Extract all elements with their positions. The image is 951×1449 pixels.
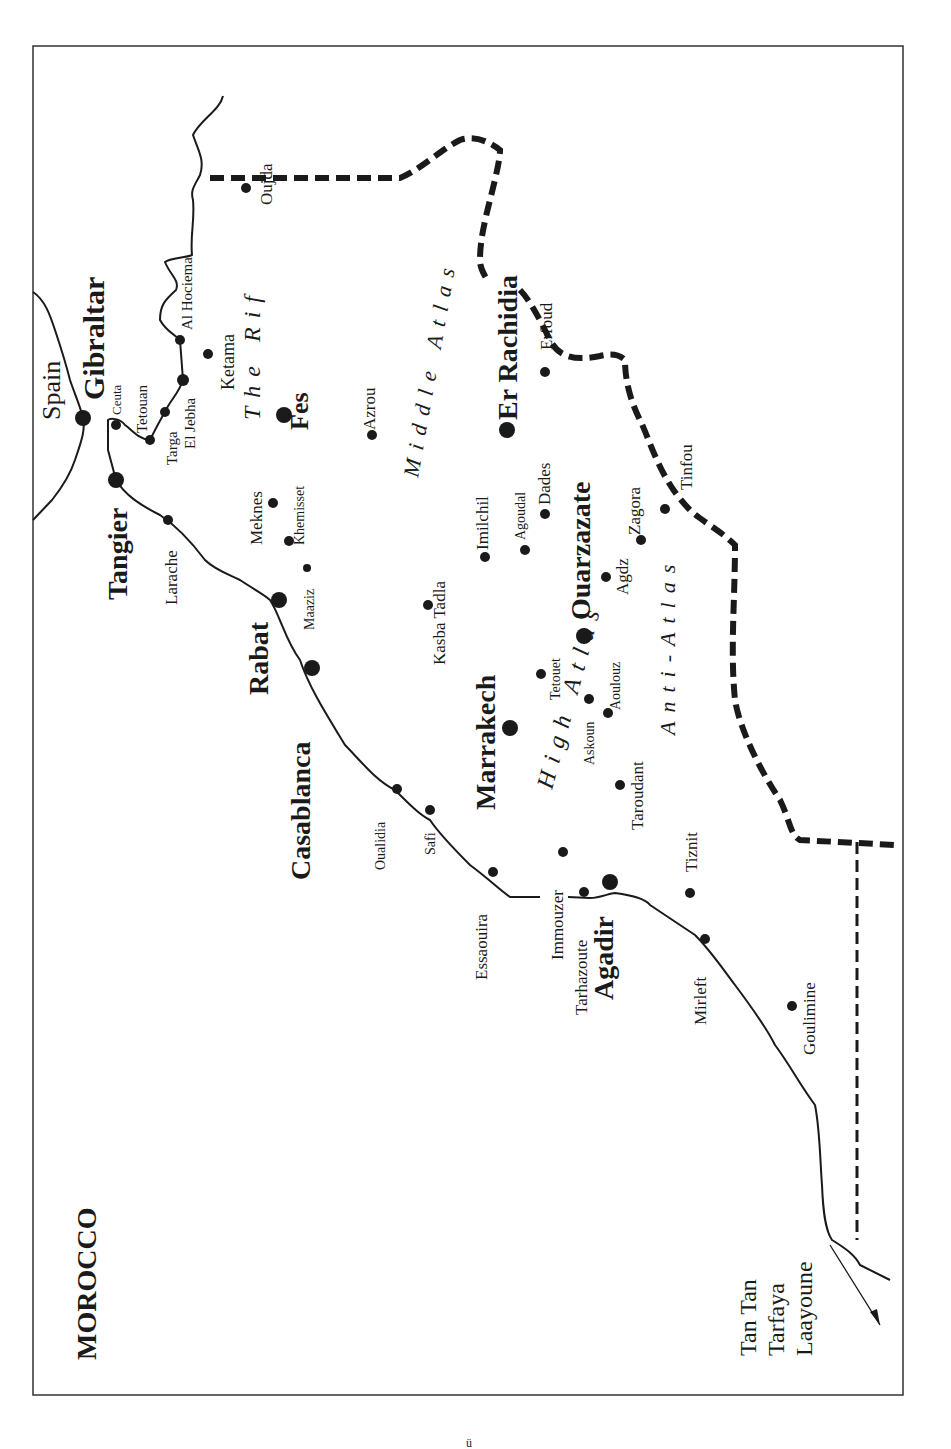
town-label-ceuta: Ceuta — [109, 384, 124, 415]
town-label-tetouan: Tetouan — [134, 384, 150, 433]
town-label-zagora: Zagora — [625, 486, 644, 535]
safi-dot[interactable] — [425, 805, 435, 815]
city-label-agadir: Agadir — [588, 916, 619, 1000]
town-label-larache: Larache — [162, 550, 181, 605]
askoun-dot[interactable] — [584, 694, 594, 704]
town-label-azrou: Azrou — [360, 387, 379, 430]
town-label-targa: Targa — [164, 431, 180, 465]
town-label-essaouira: Essaouira — [472, 913, 491, 980]
city-label-tangier: Tangier — [102, 508, 133, 600]
city-label-marrakech: Marrakech — [470, 674, 501, 810]
azrou-dot[interactable] — [367, 430, 377, 440]
town-label-askoun: Askoun — [582, 721, 597, 765]
mirleft-dot[interactable] — [700, 934, 710, 944]
meknes-dot[interactable] — [268, 498, 278, 508]
maaziz-dot[interactable] — [303, 564, 311, 572]
tetouan-dot[interactable] — [145, 435, 155, 445]
tinfou-dot[interactable] — [660, 504, 670, 514]
tangier-dot[interactable] — [108, 472, 124, 488]
town-label-tiznit: Tiznit — [682, 832, 701, 872]
el-jebha-dot[interactable] — [177, 374, 189, 386]
map-frame — [33, 46, 903, 1395]
imilchil-dot[interactable] — [480, 552, 490, 562]
agdz-dot[interactable] — [601, 572, 611, 582]
casablanca-dot[interactable] — [304, 660, 320, 676]
town-label-oujda: Oujda — [257, 163, 276, 205]
city-label-ouarzazate: Ouarzazate — [565, 482, 596, 620]
dades-dot[interactable] — [540, 509, 550, 519]
destination-label-laayoune: Laayoune — [791, 1261, 817, 1356]
al-hociema-dot[interactable] — [175, 335, 185, 345]
rabat-dot[interactable] — [271, 592, 287, 608]
town-label-mirleft: Mirleft — [691, 977, 710, 1025]
taroudant-dot[interactable] — [615, 780, 625, 790]
ketama-dot[interactable] — [203, 349, 213, 359]
essaouira-dot[interactable] — [488, 867, 498, 877]
town-label-maaziz: Maaziz — [302, 589, 317, 630]
destination-label-tarfaya: Tarfaya — [763, 1283, 789, 1356]
town-label-tinfou: Tinfou — [677, 444, 696, 490]
city-label-casablanca: Casablanca — [285, 742, 316, 880]
town-label-el-jebha: El Jebha — [182, 397, 198, 449]
gibraltar-dot[interactable] — [75, 410, 91, 426]
town-label-imilchil: Imilchil — [473, 496, 492, 550]
map-title: MOROCCO — [71, 1208, 102, 1360]
town-label-dades: Dades — [535, 463, 554, 505]
country-label-spain: Spain — [37, 361, 66, 420]
town-label-tetouet: Tetouet — [548, 658, 563, 700]
town-label-kasba-tadla: Kasba Tadla — [430, 581, 449, 665]
zagora-dot[interactable] — [636, 535, 646, 545]
south-arrow-head — [870, 1309, 880, 1325]
morocco-map: Spain Gibraltar Ceuta Tetouan Targa El J… — [0, 0, 951, 1449]
town-label-goulimine: Goulimine — [800, 982, 819, 1055]
region-label-middle-atlas: Middle Atlas — [398, 257, 461, 480]
town-label-immouzer: Immouzer — [548, 890, 567, 960]
city-label-rabat: Rabat — [243, 621, 274, 695]
town-label-safi: Safi — [423, 832, 438, 855]
town-label-ketama: Ketama — [218, 334, 238, 390]
agadir-dot[interactable] — [602, 874, 618, 890]
tetouet-dot[interactable] — [536, 669, 546, 679]
immouzer-dot[interactable] — [558, 847, 568, 857]
destination-label-tan-tan: Tan Tan — [735, 1279, 761, 1356]
region-label-anti-atlas: Anti-Atlas — [655, 556, 680, 737]
town-label-agdz: Agdz — [613, 558, 632, 595]
city-label-fes: Fes — [285, 392, 314, 430]
targa-dot[interactable] — [160, 407, 170, 417]
region-label-rif: The Rif — [239, 287, 265, 420]
oualidia-dot[interactable] — [392, 784, 402, 794]
town-label-khemisset: Khemisset — [292, 486, 307, 545]
town-label-taroudant: Taroudant — [628, 761, 647, 830]
er-rachidia-dot[interactable] — [499, 422, 515, 438]
town-label-erfoud: Erfoud — [537, 302, 556, 350]
town-label-al-hociema: Al Hociema — [179, 257, 195, 330]
town-label-oualidia: Oualidia — [373, 821, 388, 870]
larache-dot[interactable] — [163, 515, 173, 525]
town-label-aoulouz: Aoulouz — [608, 662, 623, 710]
tiznit-dot[interactable] — [685, 888, 695, 898]
footer-mark: ü — [466, 1436, 472, 1449]
marrakech-dot[interactable] — [502, 720, 518, 736]
town-label-meknes: Meknes — [247, 491, 266, 545]
oujda-dot[interactable] — [241, 183, 251, 193]
ceuta-dot[interactable] — [111, 420, 121, 430]
tarhazoute-dot[interactable] — [579, 887, 589, 897]
city-label-er-rachidia: Er Rachidia — [492, 275, 523, 420]
city-label-gibraltar: Gibraltar — [77, 277, 110, 400]
goulimine-dot[interactable] — [787, 1001, 797, 1011]
agoudal-dot[interactable] — [520, 545, 530, 555]
erfoud-dot[interactable] — [540, 367, 550, 377]
town-label-agoudal: Agoudal — [513, 492, 528, 540]
